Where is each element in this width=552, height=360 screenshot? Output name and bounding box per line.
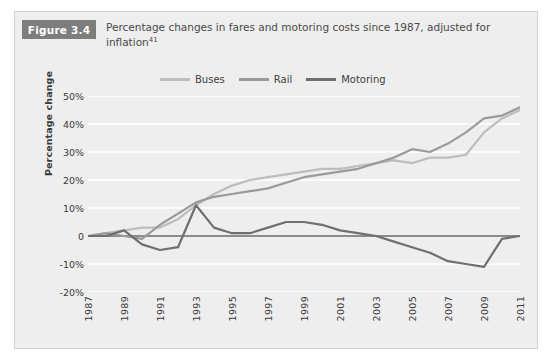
x-tick-label-1999: 1999 [299, 296, 310, 321]
figure-number-badge: Figure 3.4 [22, 20, 96, 39]
plot-area [88, 96, 520, 292]
legend-swatch-buses [160, 78, 190, 81]
figure-caption-footnote: 41 [149, 35, 158, 43]
x-tick-label-2009: 2009 [479, 296, 490, 321]
y-tick-label-30: 30% [63, 147, 84, 158]
y-tick-label--20: -20% [59, 287, 84, 298]
legend-item-rail: Rail [239, 74, 292, 85]
y-tick-label-10: 10% [63, 203, 84, 214]
legend-label-buses: Buses [195, 74, 225, 85]
x-tick-label-1989: 1989 [119, 296, 130, 321]
x-tick-label-2001: 2001 [335, 296, 346, 321]
x-tick-label-1993: 1993 [191, 296, 202, 321]
y-tick-label--10: -10% [59, 259, 84, 270]
y-tick-label-0: 0 [78, 231, 84, 242]
legend-item-motoring: Motoring [306, 74, 385, 85]
x-tick-label-2005: 2005 [407, 296, 418, 321]
x-tick-label-1997: 1997 [263, 296, 274, 321]
x-tick-label-2007: 2007 [443, 296, 454, 321]
x-tick-label-2003: 2003 [371, 296, 382, 321]
x-tick-label-1991: 1991 [155, 296, 166, 321]
legend-item-buses: Buses [160, 74, 225, 85]
figure-caption: Percentage changes in fares and motoring… [106, 20, 502, 49]
y-tick-label-50: 50% [63, 91, 84, 102]
figure-root: Figure 3.4 Percentage changes in fares a… [0, 0, 552, 360]
legend-label-motoring: Motoring [341, 74, 385, 85]
x-axis-tick-labels: 1987198919911993199519971999200120032005… [88, 296, 520, 352]
series-line-rail [88, 107, 520, 239]
x-tick-label-1995: 1995 [227, 296, 238, 321]
chart-legend: Buses Rail Motoring [160, 71, 420, 87]
y-tick-label-20: 20% [63, 175, 84, 186]
x-tick-label-2011: 2011 [515, 296, 526, 321]
figure-caption-line1: Percentage changes in fares and motoring… [106, 21, 472, 33]
chart-canvas [88, 96, 520, 292]
series-line-buses [88, 110, 520, 236]
legend-swatch-motoring [306, 78, 336, 81]
y-axis-tick-labels: 50%40%30%20%10%0-10%-20% [44, 96, 84, 292]
x-tick-label-1987: 1987 [83, 296, 94, 321]
y-tick-label-40: 40% [63, 119, 84, 130]
legend-swatch-rail [239, 78, 269, 81]
legend-label-rail: Rail [274, 74, 292, 85]
